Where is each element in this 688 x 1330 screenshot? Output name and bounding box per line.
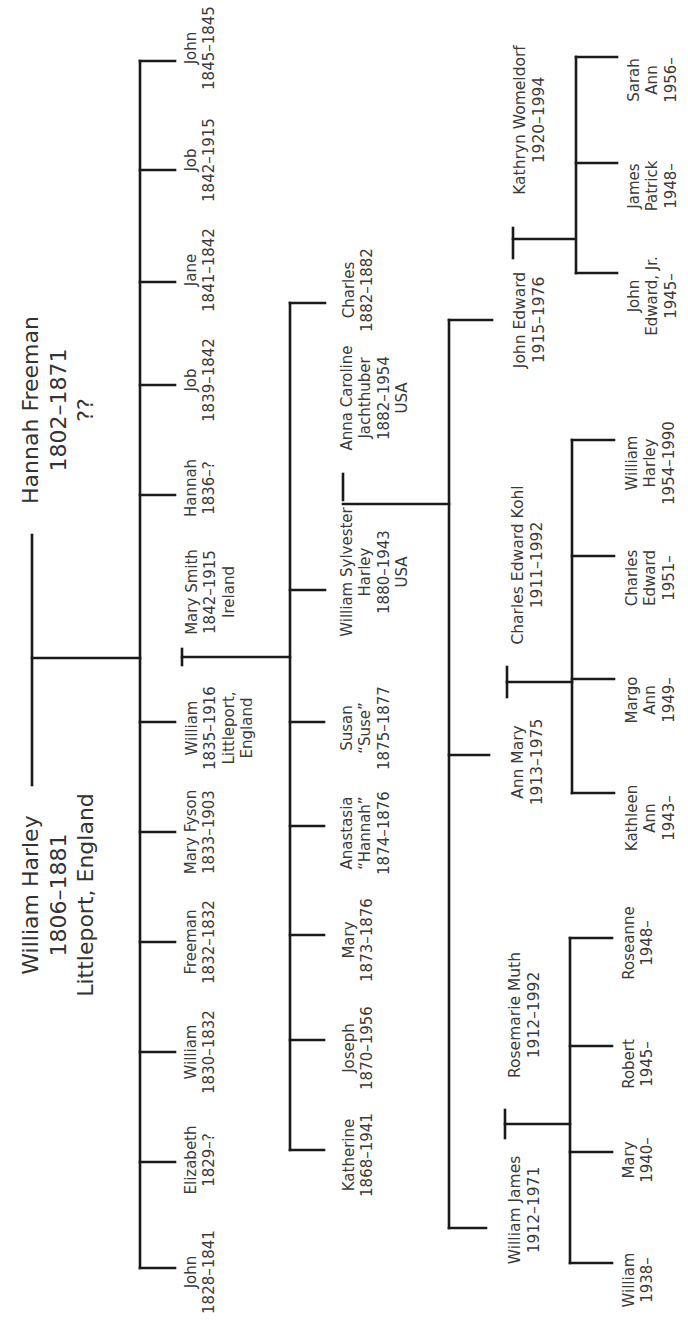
person-name2: Ann [643,57,661,103]
person-dates: 1912–1971 [525,1156,544,1265]
person-dates: 1842–1915 [201,549,219,635]
person-name: Margo [623,677,641,724]
person-place: England [238,686,256,770]
person-dates: 1882–1882 [358,248,376,332]
person-name: Rosemarie Muth [506,952,525,1078]
person-dates: 1873–1876 [358,898,376,982]
person-name: Kathleen [623,785,641,851]
person-dates: 1949– [659,677,677,724]
person-dates: 1951– [659,550,677,607]
person-name2: Harley [641,421,659,505]
person-name: Mary Fyson [182,790,200,875]
person-name: Joseph [340,1006,358,1090]
person-name: Hannah [182,459,200,517]
person-name: Anna Caroline [338,346,356,451]
person-dates: 1842–1915 [200,118,218,202]
person-name: Charles Edward Kohl [509,485,528,644]
person-place: ?? [72,316,100,504]
family-tree-diagram: Hannah Freeman 1802–1871 ?? William Harl… [0,0,688,1330]
person-name2: Edward [641,550,659,607]
person-nickname: “Hannah” [356,791,374,875]
person-dates: 1948– [638,906,656,979]
person-name: Charles [623,550,641,607]
person-dates: 1945– [638,1039,656,1089]
person-name: William Harley [17,793,45,997]
person-name: John Edward [511,272,530,368]
person-dates: 1880–1943 [375,507,393,637]
person-name: John [625,256,643,335]
person-name: Robert [620,1039,638,1089]
person-dates: 1940– [638,1137,656,1183]
person-name: Katherine [340,1113,358,1197]
person-place: USA [393,346,411,451]
person-dates: 1948– [661,161,679,212]
person-dates: 1806–1881 [44,793,72,997]
person-dates: 1911–1992 [528,485,547,644]
person-dates: 1938– [638,1253,656,1308]
person-dates: 1832–1832 [200,900,218,984]
person-place: USA [393,507,411,637]
person-name: John [182,1230,200,1314]
person-name: Jane [182,228,200,312]
person-dates: 1945– [661,256,679,335]
person-name: Roseanne [620,906,638,979]
person-dates: 1839–1842 [200,338,218,422]
person-dates: 1875–1877 [374,686,392,770]
person-dates: 1830–1832 [200,1010,218,1094]
person-dates: 1882–1954 [375,346,393,451]
person-dates: 1845–1845 [200,6,218,90]
person-dates: 1829–? [200,1125,218,1194]
person-name2: Patrick [643,161,661,212]
person-place: Littleport, England [72,793,100,997]
person-name: William [183,686,201,770]
person-name2: Ann [641,677,659,724]
person-name: William Sylvester [338,507,356,637]
person-name: William [623,421,641,505]
person-name: William [182,1010,200,1094]
person-dates: 1836–? [200,459,218,517]
person-dates: 1868–1941 [358,1113,376,1197]
person-dates: 1874–1876 [374,791,392,875]
person-dates: 1833–1903 [200,790,218,875]
person-dates: 1802–1871 [44,316,72,504]
person-dates: 1835–1916 [202,686,220,770]
person-dates: 1954–1990 [659,421,677,505]
person-dates: 1913–1975 [528,719,547,806]
person-name: Kathryn Womeldorf [511,45,530,195]
person-name: Sarah [625,57,643,103]
person-name: Susan [338,686,356,770]
person-name: Freeman [182,900,200,984]
person-place: Ireland [219,549,237,635]
person-name: James [625,161,643,212]
person-name: Mary [340,898,358,982]
person-name: Job [182,338,200,422]
person-name: William James [506,1156,525,1265]
person-name2: Edward, Jr. [643,256,661,335]
person-name: Hannah Freeman [17,316,45,504]
person-name: Mary [620,1137,638,1183]
person-dates: 1943– [659,785,677,851]
person-place: Littleport, [220,686,238,770]
person-dates: 1828–1841 [200,1230,218,1314]
person-name: John [182,6,200,90]
person-dates: 1956– [661,57,679,103]
person-name: Job [182,118,200,202]
person-dates: 1870–1956 [358,1006,376,1090]
person-name: Ann Mary [509,719,528,806]
person-name2: Harley [357,507,375,637]
person-dates: 1912–1992 [525,952,544,1078]
person-name2: Ann [641,785,659,851]
person-dates: 1841–1842 [200,228,218,312]
person-name: Charles [340,248,358,332]
person-name: Mary Smith [183,549,201,635]
person-dates: 1920–1994 [530,45,549,195]
person-nickname: “Suse” [356,686,374,770]
person-name: Anastasia [338,791,356,875]
person-dates: 1915–1976 [530,272,549,368]
person-name: William [620,1253,638,1308]
person-name: Elizabeth [182,1125,200,1194]
person-name2: Jachthuber [357,346,375,451]
